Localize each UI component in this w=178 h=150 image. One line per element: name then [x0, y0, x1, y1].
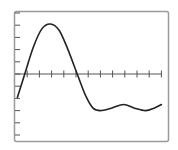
chart-container: [0, 0, 178, 150]
plot-frame: [15, 12, 169, 142]
line-chart: [0, 0, 178, 150]
